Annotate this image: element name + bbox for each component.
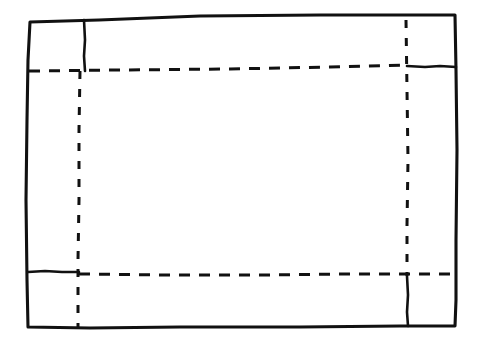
central-content-region xyxy=(84,71,406,273)
right-sidebar-column xyxy=(407,66,455,275)
bottom-right-vertical-solid-segment xyxy=(407,276,408,326)
bottom-left-horizontal-solid-segment xyxy=(28,271,79,272)
top-right-horizontal-solid-segment xyxy=(407,66,456,67)
right-vertical-dashed-guide xyxy=(406,20,408,276)
left-sidebar-column xyxy=(28,70,80,275)
wireframe-vector-layer xyxy=(0,0,481,347)
handdrawn-wireframe-canvas xyxy=(0,0,481,347)
bottom-footer-strip xyxy=(28,274,455,326)
top-left-vertical-divider xyxy=(84,20,85,71)
top-header-strip xyxy=(28,16,455,70)
